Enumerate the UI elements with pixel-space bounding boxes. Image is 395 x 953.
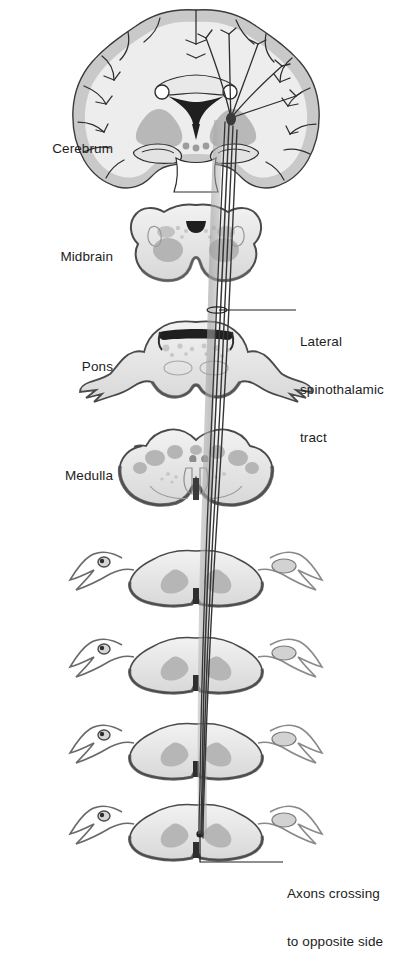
label-axons-line1: Axons crossing — [287, 886, 395, 902]
left-ganglion-dot-4 — [100, 813, 104, 817]
midbrain-left-nucleus — [153, 238, 183, 262]
spinal-cord-sections — [70, 550, 322, 860]
label-cerebrum: Cerebrum — [0, 141, 113, 157]
midbrain-section — [131, 204, 261, 280]
hypothalamic-nucleus-right — [203, 143, 210, 150]
medulla-section — [120, 429, 273, 505]
left-lateral-ventricle — [155, 85, 169, 99]
left-dorsal-root-ganglion-1 — [98, 557, 110, 567]
label-pons: Pons — [0, 359, 113, 375]
left-ganglion-dot-2 — [100, 646, 104, 650]
label-tract-line3: tract — [300, 430, 395, 446]
median-fissure-4 — [193, 842, 199, 858]
hypothalamic-nucleus-mid — [193, 145, 200, 152]
left-ganglion-dot-3 — [100, 732, 104, 736]
cerebrum-brainstem-base — [174, 158, 218, 192]
right-dorsal-root-ganglion-2 — [272, 646, 296, 660]
midbrain-outline — [131, 204, 261, 280]
right-dorsal-root-ganglion-1 — [272, 559, 296, 573]
left-dorsal-root-ganglion-3 — [98, 730, 110, 740]
thalamus-relay-nucleus — [226, 113, 236, 126]
pons-section — [80, 321, 312, 402]
spinal-cord-section-1 — [70, 550, 322, 606]
left-dorsal-root-ganglion-4 — [98, 811, 110, 821]
midbrain-left-tegmentum — [157, 226, 175, 238]
spinal-cord-section-3 — [70, 723, 322, 779]
right-dorsal-root-ganglion-3 — [272, 732, 296, 746]
median-fissure-1 — [193, 588, 199, 604]
spinal-cord-section-2 — [70, 637, 322, 693]
spinal-cord-section-4 — [70, 804, 322, 860]
label-tract-line1: Lateral — [300, 334, 395, 350]
label-tract-line2: spinothalamic — [300, 382, 395, 398]
label-medulla: Medulla — [0, 468, 113, 484]
right-dorsal-root-ganglion-4 — [272, 813, 296, 827]
label-axons-crossing: Axons crossing to opposite side — [287, 854, 395, 953]
label-midbrain: Midbrain — [0, 249, 113, 265]
label-lateral-spinothalamic-tract: Lateral spinothalamic tract — [300, 302, 395, 462]
medulla-median-fissure — [193, 478, 199, 500]
left-dorsal-root-ganglion-2 — [98, 644, 110, 654]
fourth-ventricle — [159, 329, 233, 340]
left-ganglion-dot-1 — [100, 559, 104, 563]
label-axons-line2: to opposite side — [287, 934, 395, 950]
cerebrum-section — [73, 10, 319, 192]
hypothalamic-nucleus-left — [183, 143, 190, 150]
